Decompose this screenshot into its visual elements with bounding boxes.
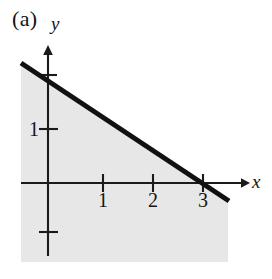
x-tick-label-1: 1 xyxy=(95,190,111,210)
y-axis-label: y xyxy=(51,14,59,33)
figure-panel-a: (a) y x 1 2 3 1 xyxy=(0,0,272,279)
panel-label: (a) xyxy=(12,8,37,30)
x-tick-label-2: 2 xyxy=(145,190,161,210)
x-axis-label: x xyxy=(252,172,260,191)
y-tick-label-1: 1 xyxy=(27,119,41,139)
plot-canvas xyxy=(0,0,272,279)
x-tick-label-3: 3 xyxy=(195,190,211,210)
